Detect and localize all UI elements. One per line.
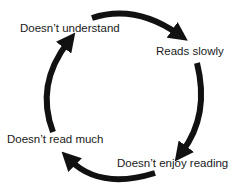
node-doesnt-read-much: Doesn’t read much: [7, 133, 104, 146]
node-reads-slowly: Reads slowly: [156, 45, 224, 58]
node-doesnt-understand: Doesn’t understand: [20, 22, 120, 35]
node-doesnt-enjoy-reading: Doesn’t enjoy reading: [117, 157, 228, 170]
arrow-readmuch-to-understand: [47, 42, 68, 132]
arrow-slowly-to-enjoy: [182, 63, 201, 152]
cycle-diagram: Doesn’t understand Reads slowly Doesn’t …: [0, 0, 249, 188]
